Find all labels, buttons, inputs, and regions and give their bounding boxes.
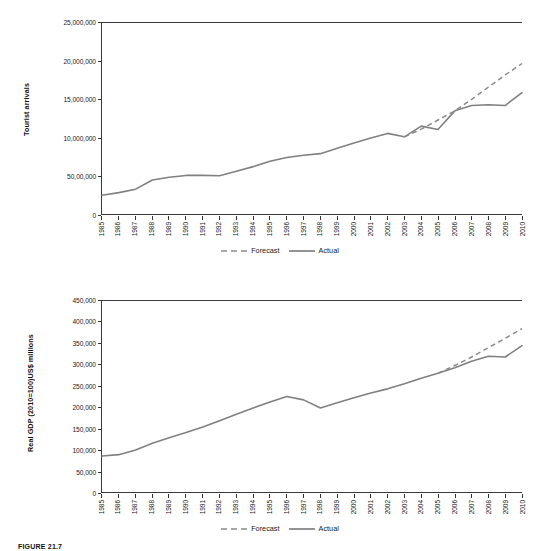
x-tick-mark (522, 216, 523, 220)
x-tick-label-2003: 2003 (401, 222, 408, 236)
x-tick-mark (253, 216, 254, 220)
x-tick-mark (236, 494, 237, 498)
y-tick-label: 300,000 (73, 361, 97, 368)
x-tick-label-2004: 2004 (417, 500, 424, 514)
x-tick-label-1997: 1997 (300, 222, 307, 236)
x-tick-label-2009: 2009 (502, 500, 509, 514)
x-tick-label-2002: 2002 (384, 222, 391, 236)
x-tick-label-1992: 1992 (215, 500, 222, 514)
y-tick-label: 250,000 (73, 382, 97, 389)
y-tick-label: 20,000,000 (63, 57, 96, 64)
x-tick-mark (421, 216, 422, 220)
x-tick-mark (118, 494, 119, 498)
x-tick-mark (320, 216, 321, 220)
x-tick-mark (152, 216, 153, 220)
x-tick-mark (471, 494, 472, 498)
x-tick-mark (219, 216, 220, 220)
x-tick-label-1988: 1988 (148, 222, 155, 236)
x-tick-mark (253, 494, 254, 498)
x-tick-mark (354, 494, 355, 498)
x-tick-mark (135, 216, 136, 220)
x-tick-mark (505, 216, 506, 220)
x-tick-mark (219, 494, 220, 498)
x-tick-mark (168, 216, 169, 220)
legend-item-forecast: Forecast (221, 525, 279, 532)
x-tick-mark (404, 494, 405, 498)
legend-label-forecast: Forecast (251, 525, 279, 532)
solid-line-icon (289, 248, 315, 254)
y-tick-label: 200,000 (73, 404, 97, 411)
y-tick-label: 400,000 (73, 318, 97, 325)
legend-item-actual: Actual (289, 525, 339, 532)
x-tick-label-1993: 1993 (232, 500, 239, 514)
x-tick-mark (455, 216, 456, 220)
chart-tourist-arrivals: Tourist arrivals 050,00,00010,000,00015,… (0, 0, 560, 262)
solid-line-icon (289, 526, 315, 532)
x-tick-label-1994: 1994 (249, 500, 256, 514)
y-tick-label: 25,000,000 (63, 19, 96, 26)
x-tick-label-1999: 1999 (333, 222, 340, 236)
chart-legend: Forecast Actual (0, 525, 560, 532)
y-tick-label: 350,000 (73, 339, 97, 346)
x-tick-label-2009: 2009 (502, 222, 509, 236)
legend-label-actual: Actual (319, 525, 339, 532)
x-tick-mark (269, 216, 270, 220)
figure-caption: FIGURE 21.7 (18, 543, 62, 551)
x-tick-mark (168, 494, 169, 498)
x-tick-label-2005: 2005 (434, 222, 441, 236)
x-tick-label-1990: 1990 (182, 500, 189, 514)
y-tick-label: 150,000 (73, 425, 97, 432)
x-tick-label-2010: 2010 (519, 500, 526, 514)
x-tick-label-2006: 2006 (451, 500, 458, 514)
plot-area (101, 300, 522, 493)
x-tick-mark (438, 216, 439, 220)
x-tick-mark (101, 216, 102, 220)
x-tick-mark (505, 494, 506, 498)
x-tick-mark (320, 494, 321, 498)
dashed-line-icon (221, 248, 247, 254)
y-axis-title: Real GDP (2010=100)US$ millions (26, 298, 36, 488)
legend-label-actual: Actual (319, 247, 339, 254)
y-tick-label: 450,000 (73, 297, 97, 304)
x-tick-mark (522, 494, 523, 498)
chart-legend: Forecast Actual (0, 247, 560, 254)
x-tick-label-1992: 1992 (215, 222, 222, 236)
x-tick-mark (488, 494, 489, 498)
figure-page: Tourist arrivals 050,00,00010,000,00015,… (0, 0, 560, 551)
legend-item-forecast: Forecast (221, 247, 279, 254)
x-tick-mark (404, 216, 405, 220)
x-tick-mark (286, 494, 287, 498)
x-tick-label-1985: 1985 (98, 222, 105, 236)
x-tick-mark (455, 494, 456, 498)
x-tick-mark (202, 494, 203, 498)
y-tick-label: 100,000 (73, 447, 97, 454)
x-tick-mark (303, 494, 304, 498)
x-tick-label-1987: 1987 (131, 222, 138, 236)
x-tick-label-1989: 1989 (165, 500, 172, 514)
x-tick-label-2007: 2007 (468, 500, 475, 514)
x-tick-label-1991: 1991 (199, 500, 206, 514)
y-tick-label: 10,000,000 (63, 134, 96, 141)
x-tick-label-2000: 2000 (350, 222, 357, 236)
x-tick-label-1991: 1991 (199, 222, 206, 236)
x-tick-label-2002: 2002 (384, 500, 391, 514)
x-tick-mark (118, 216, 119, 220)
x-tick-mark (438, 494, 439, 498)
x-tick-mark (185, 216, 186, 220)
x-tick-label-1985: 1985 (98, 500, 105, 514)
x-tick-label-2006: 2006 (451, 222, 458, 236)
x-tick-label-2003: 2003 (401, 500, 408, 514)
plot-area (101, 22, 522, 215)
x-tick-mark (236, 216, 237, 220)
x-tick-label-1986: 1986 (114, 222, 121, 236)
x-tick-label-2005: 2005 (434, 500, 441, 514)
x-tick-mark (488, 216, 489, 220)
x-tick-label-1995: 1995 (266, 222, 273, 236)
x-tick-mark (303, 216, 304, 220)
x-tick-mark (370, 494, 371, 498)
chart-real-gdp: Real GDP (2010=100)US$ millions 050,0001… (0, 288, 560, 550)
x-tick-label-1996: 1996 (283, 500, 290, 514)
x-tick-label-2004: 2004 (417, 222, 424, 236)
x-tick-mark (387, 494, 388, 498)
x-tick-mark (387, 216, 388, 220)
